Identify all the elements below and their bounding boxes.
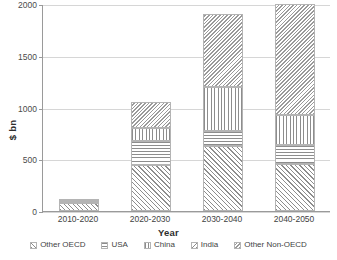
x-tick-label: 2010-2020 <box>58 215 99 224</box>
legend-swatch-icon <box>101 242 108 249</box>
legend-item[interactable]: China <box>144 241 175 249</box>
legend-label: Other OECD <box>40 241 85 249</box>
bar-segment[interactable] <box>275 115 315 145</box>
legend-label: USA <box>111 241 127 249</box>
legend-item[interactable]: India <box>191 241 218 249</box>
legend-swatch-icon <box>144 242 151 249</box>
bar-segment[interactable] <box>59 199 99 201</box>
bar-slot <box>259 5 331 211</box>
bar-segment[interactable] <box>275 4 315 115</box>
bar-slot <box>115 5 187 211</box>
bar-segment[interactable] <box>59 203 99 211</box>
legend-item[interactable]: USA <box>101 241 127 249</box>
x-tick-label: 2030-2040 <box>202 215 243 224</box>
bar-segment[interactable] <box>275 145 315 165</box>
bar-slot <box>187 5 259 211</box>
bar-segment[interactable] <box>203 14 243 87</box>
legend-label: Other Non-OECD <box>244 241 307 249</box>
stacked-bar-chart: $ bn 2000150010005000 2010-20202020-2030… <box>0 0 337 260</box>
legend-item[interactable]: Other Non-OECD <box>234 241 307 249</box>
bar-segment[interactable] <box>131 165 171 211</box>
bar-segment[interactable] <box>131 141 171 166</box>
legend-swatch-icon <box>30 242 37 249</box>
bar-segment[interactable] <box>203 87 243 130</box>
chart-legend: Other OECDUSAChinaIndiaOther Non-OECD <box>0 241 337 249</box>
bar-segment[interactable] <box>275 164 315 211</box>
y-tick-label: 1500 <box>18 53 37 62</box>
legend-swatch-icon <box>191 242 198 249</box>
legend-label: China <box>154 241 175 249</box>
y-tick-label: 500 <box>23 156 37 165</box>
x-tick-label: 2020-2030 <box>130 215 171 224</box>
bar-segment[interactable] <box>131 128 171 141</box>
plot-area: 2000150010005000 <box>42 5 330 212</box>
bar-slot <box>43 5 115 211</box>
gridline-0 <box>43 212 330 213</box>
legend-item[interactable]: Other OECD <box>30 241 85 249</box>
legend-label: India <box>201 241 218 249</box>
bar-segment[interactable] <box>203 146 243 211</box>
x-axis-label: Year <box>0 227 337 238</box>
y-tick-label: 1000 <box>18 104 37 113</box>
y-tick-label: 2000 <box>18 1 37 10</box>
bar-segment[interactable] <box>131 102 171 128</box>
x-tick-label: 2040-2050 <box>274 215 315 224</box>
legend-swatch-icon <box>234 242 241 249</box>
y-tick-mark-0 <box>39 212 43 213</box>
y-axis-label: $ bn <box>7 120 18 140</box>
y-tick-label: 0 <box>32 208 37 217</box>
bar-segment[interactable] <box>203 131 243 147</box>
